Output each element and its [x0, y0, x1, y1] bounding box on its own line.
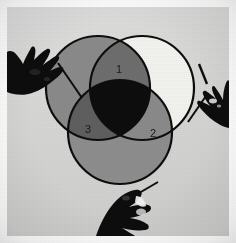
region-label-2: 2 — [150, 127, 156, 139]
venn-diagram-photo: 1 2 3 — [0, 0, 236, 243]
region-label-3: 3 — [85, 123, 91, 135]
region-label-1: 1 — [116, 63, 122, 75]
photo-canvas: 1 2 3 — [0, 0, 236, 243]
